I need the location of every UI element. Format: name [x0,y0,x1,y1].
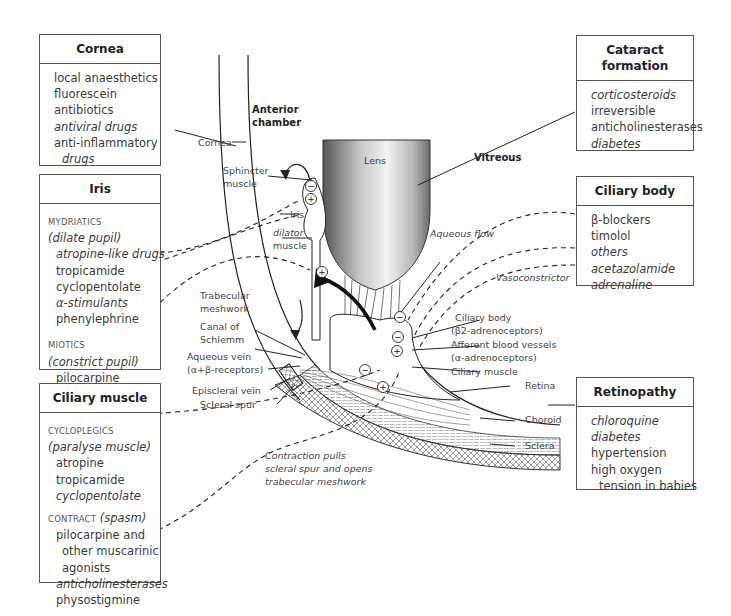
label-vitreous: Vitreous [474,152,521,164]
ciliary-muscle-box-title: Ciliary muscle [40,384,160,413]
label-aqueous-flow: Aqueous flow [430,228,494,240]
label-sphincter-1: Sphincter [223,165,268,177]
list-item: atropine [48,455,150,471]
list-item: α-stimulants [48,295,150,311]
section-subtitle: (spasm) [100,511,147,525]
section-caption: CYCLOPLEGICS [48,423,150,439]
list-item: fluorescein [54,86,150,102]
label-trabecular-1: Trabecular [200,290,250,302]
ciliary-body-box-title: Ciliary body [577,177,693,206]
list-item: cyclopentolate [48,488,150,504]
list-item: anticholinesterases [591,119,683,135]
retinopathy-box: Retinopathy chloroquine diabetes hyperte… [576,377,694,490]
list-item: local anaesthetics [54,70,150,86]
list-item: corticosteroids [591,87,683,103]
list-item: irreversible [591,103,683,119]
label-canal-2: Schlemm [200,334,244,346]
list-item: physostigmine [48,592,150,608]
section-caption: CONTRACT [48,514,96,524]
list-item: hypertension [591,445,683,461]
cataract-box: Cataract formation corticosteroids irrev… [576,35,694,151]
iris-box-title: Iris [40,175,160,204]
list-item: drugs [54,151,150,167]
label-retina: Retina [525,380,555,392]
list-item: atropine-like drugs [48,246,150,262]
list-item: antiviral drugs [54,119,150,135]
list-item: tropicamide [48,263,150,279]
list-item: diabetes [591,429,683,445]
label-trabecular-2: meshwork [200,303,249,315]
list-item: antibiotics [54,102,150,118]
list-item: diabetes [591,136,683,152]
ciliary-body-shape [330,314,460,400]
label-choroid: Choroid [525,414,562,426]
list-item: tropicamide [48,472,150,488]
label-ciliary-body-1: Ciliary body [455,312,511,324]
label-ciliary-body-2: (β2-adrenoceptors) [451,325,543,337]
list-item: phenylephrine [48,311,150,327]
iris-box: Iris MYDRIATICS (dilate pupil) atropine-… [39,174,161,370]
ciliary-body-box: Ciliary body β-blockers timolol others a… [576,176,694,286]
list-item: acetazolamide [591,261,683,277]
section-subtitle: (constrict pupil) [48,354,150,370]
trabecular-flow-arrow [295,300,302,335]
list-item: timolol [591,228,683,244]
cataract-box-title: Cataract formation [577,36,693,81]
cornea-box: Cornea local anaesthetics fluorescein an… [39,34,161,166]
list-item: anticholinesterases [48,576,150,592]
list-item: chloroquine [591,413,683,429]
label-cornea: Cornea [198,137,232,149]
plus-symbol: + [379,382,387,392]
plus-symbol: + [318,267,326,277]
list-item: anti-inflammatory [54,135,150,151]
cornea-box-title: Cornea [40,35,160,64]
label-iris: Iris [290,209,304,221]
retinopathy-box-title: Retinopathy [577,378,693,407]
section-caption: MIOTICS [48,337,150,353]
label-episcleral-vein: Episcleral vein [192,385,261,397]
section-subtitle: (dilate pupil) [48,230,150,246]
list-item: cyclopentolate [48,279,150,295]
list-item: other muscarinic [48,543,150,559]
title-line: Cataract [581,42,689,58]
ciliary-muscle-box: Ciliary muscle CYCLOPLEGICS (paralyse mu… [39,383,161,583]
label-anterior-chamber-2: chamber [252,117,301,129]
label-sclera: Sclera [525,440,554,452]
minus-symbol: − [307,181,315,191]
label-aqueous-vein-1: Aqueous vein [187,351,251,363]
label-scleral-spur: Scleral spur [200,399,256,411]
label-dilator-1: dilator [273,227,304,239]
label-ciliary-muscle: Ciliary muscle [451,366,518,378]
label-anterior-chamber-1: Anterior [252,104,299,116]
section-subtitle: (paralyse muscle) [48,439,150,455]
minus-symbol: − [394,332,402,342]
label-aqueous-vein-2: (α+β-receptors) [187,364,263,376]
list-item: pilocarpine and [48,527,150,543]
label-afferent-2: (α-adrenoceptors) [451,352,537,364]
list-item: adrenaline [591,277,683,293]
label-contraction-1: Contraction pulls [265,450,346,462]
list-item: β-blockers [591,212,683,228]
plus-symbol: + [393,346,401,356]
title-line: formation [581,58,689,74]
label-contraction-2: scleral spur and opens [265,463,373,475]
label-afferent-1: Afferent blood vessels [451,339,556,351]
plus-symbol: + [307,194,315,204]
label-contraction-3: trabecular meshwork [265,476,366,488]
list-item: high oxygen [591,462,683,478]
section-caption: MYDRIATICS [48,214,150,230]
list-item: agonists [48,560,150,576]
label-dilator-2: muscle [273,240,307,252]
label-canal-1: Canal of [200,321,239,333]
label-lens: Lens [364,155,386,167]
list-item: tension in babies [591,478,683,494]
list-item: others [591,244,683,260]
minus-symbol: − [396,312,404,322]
label-vasoconstrictor: Vasoconstrictor [496,272,569,284]
minus-symbol: − [361,365,369,375]
label-sphincter-2: muscle [223,178,257,190]
